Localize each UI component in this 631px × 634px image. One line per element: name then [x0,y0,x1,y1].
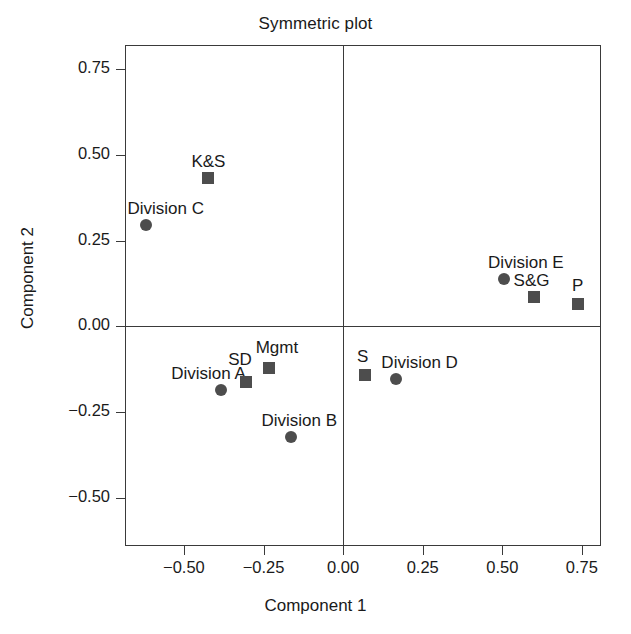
data-point-marker [359,369,371,381]
data-point-marker [263,362,275,374]
data-point-marker [572,298,584,310]
data-point-marker [390,373,402,385]
x-axis-tick [264,546,265,555]
page-title: Symmetric plot [0,14,631,34]
y-axis-tick [116,241,125,242]
x-axis-tick [343,546,344,555]
data-point-label: P [572,276,583,296]
y-axis-tick-label: 0.75 [46,58,110,77]
y-axis-tick [116,69,125,70]
data-point-label: SD [228,350,252,370]
y-axis-title: Component 2 [18,138,38,418]
x-axis-title: Component 1 [0,596,631,616]
data-point-label: K&S [191,152,225,172]
data-point-marker [528,291,540,303]
x-axis-tick-label: −0.50 [163,558,205,577]
symmetric-plot-figure: Symmetric plot 0.750.500.250.00−0.25−0.5… [0,0,631,634]
x-axis-tick [582,546,583,555]
data-point-label: Division D [381,353,458,373]
data-point-label: S&G [514,271,550,291]
y-axis-tick-label: −0.50 [46,487,110,506]
data-point-label: Division B [261,411,337,431]
x-axis-tick-label: −0.25 [243,558,285,577]
data-point-label: Division C [127,199,204,219]
data-point-marker [240,376,252,388]
y-axis-tick-label: 0.50 [46,144,110,163]
y-axis-tick [116,326,125,327]
data-point-marker [202,172,214,184]
zero-line-vertical [343,45,344,546]
y-axis-tick-label: 0.25 [46,230,110,249]
x-axis-tick-label: 0.00 [327,558,359,577]
y-axis-tick [116,412,125,413]
x-axis-tick [502,546,503,555]
data-point-marker [140,219,152,231]
x-axis-tick [423,546,424,555]
zero-line-horizontal [125,326,601,327]
data-point-marker [215,384,227,396]
y-axis-tick-label: 0.00 [46,315,110,334]
x-axis-tick-label: 0.50 [486,558,518,577]
x-axis-tick-label: 0.25 [407,558,439,577]
data-point-label: S [357,347,368,367]
data-point-label: Mgmt [256,338,299,358]
y-axis-tick-label: −0.25 [46,401,110,420]
x-axis-tick-label: 0.75 [566,558,598,577]
y-axis-tick [116,498,125,499]
y-axis-tick [116,155,125,156]
x-axis-tick [184,546,185,555]
